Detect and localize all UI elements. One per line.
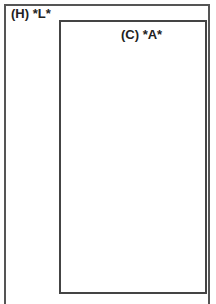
inner-region-label: (C) *A* (121, 27, 162, 42)
outer-region-label: (H) *L* (11, 6, 51, 21)
inner-region-box (59, 20, 207, 294)
